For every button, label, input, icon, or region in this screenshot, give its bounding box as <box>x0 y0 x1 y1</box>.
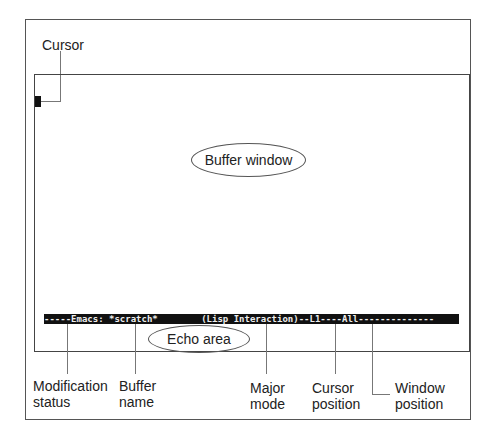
cursor-callout-label: Cursor <box>42 37 84 53</box>
major-mode-leader <box>266 324 267 374</box>
window-position-leader <box>372 324 373 394</box>
cursor-position-leader <box>335 324 336 374</box>
callout-buffer-name: Buffer name <box>119 378 156 410</box>
callout-major-mode: Major mode <box>250 380 285 412</box>
echo-area-label: Echo area <box>148 325 250 353</box>
window-position-leader-horizontal <box>372 394 390 395</box>
mode-line: -----Emacs: *scratch* (Lisp Interaction)… <box>44 314 459 324</box>
buffer-window[interactable] <box>34 74 470 352</box>
modification-status-leader <box>67 324 68 374</box>
text-cursor <box>35 96 41 107</box>
callout-window-position: Window position <box>395 380 445 412</box>
callout-cursor-position: Cursor position <box>312 380 360 412</box>
buffer-window-label: Buffer window <box>191 143 306 177</box>
callout-modification-status: Modification status <box>33 378 108 410</box>
buffer-name-leader <box>135 324 136 374</box>
